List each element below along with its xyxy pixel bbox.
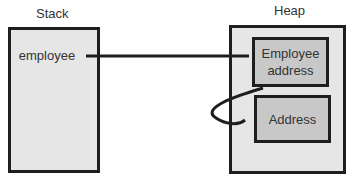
address-reference-curve [212, 88, 263, 124]
reference-arrows [0, 0, 352, 180]
